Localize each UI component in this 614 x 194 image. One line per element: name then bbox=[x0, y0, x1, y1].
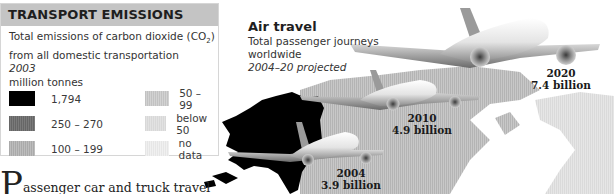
greenland-region bbox=[535, 92, 614, 194]
swatch-100-199 bbox=[9, 141, 35, 156]
swatch-1794 bbox=[9, 91, 35, 106]
legend-item: 100 – 199 bbox=[9, 140, 145, 157]
air-travel-title: Air travel bbox=[248, 19, 379, 35]
legend-item: below 50 bbox=[145, 115, 215, 132]
projection-note: 2004–20 projected bbox=[248, 61, 379, 74]
legend-year: 2003 bbox=[9, 62, 218, 76]
swatch-below-50 bbox=[145, 116, 166, 131]
legend-title: TRANSPORT EMISSIONS bbox=[1, 4, 218, 26]
label-2004: 2004 3.9 billion bbox=[321, 167, 381, 191]
drop-cap: P bbox=[0, 164, 23, 194]
swatch-250-270 bbox=[9, 116, 35, 131]
legend-item: 250 – 270 bbox=[9, 115, 145, 132]
legend-item: 50 – 99 bbox=[145, 90, 215, 107]
legend-item: no data bbox=[145, 140, 215, 157]
legend-items: 1,794 250 – 270 100 – 199 50 – 99 below … bbox=[9, 90, 214, 157]
legend-item: 1,794 bbox=[9, 90, 145, 107]
article-body-text: Passenger car and truck travel bbox=[0, 170, 210, 194]
label-2020: 2020 7.4 billion bbox=[531, 67, 591, 91]
label-2010: 2010 4.9 billion bbox=[392, 112, 452, 136]
emissions-legend: TRANSPORT EMISSIONS Total emissions of c… bbox=[0, 3, 219, 156]
legend-description: Total emissions of carbon dioxide (CO2) … bbox=[1, 26, 218, 89]
plane-2020-icon bbox=[350, 8, 600, 68]
swatch-no-data bbox=[145, 141, 169, 156]
air-travel-caption: Air travel Total passenger journeys worl… bbox=[248, 19, 379, 74]
swatch-50-99 bbox=[145, 91, 169, 106]
